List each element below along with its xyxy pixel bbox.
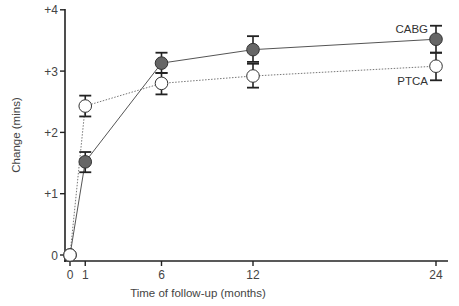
- ptca-line: [70, 66, 436, 255]
- ptca-point: [79, 100, 92, 113]
- x-axis-title: Time of follow-up (months): [130, 287, 266, 299]
- y-axis-title: Change (mins): [10, 97, 22, 173]
- x-tick-label: 24: [429, 268, 443, 282]
- ptca-point: [247, 70, 260, 83]
- x-tick-label: 0: [67, 268, 74, 282]
- y-tick-label: +4: [44, 3, 58, 17]
- cabg-point: [430, 33, 443, 46]
- y-tick-label: +2: [44, 126, 58, 140]
- x-ticks: 0161224: [67, 261, 443, 282]
- cabg-point: [155, 57, 168, 70]
- cabg-point: [64, 249, 77, 262]
- ptca-series: [64, 53, 443, 262]
- line-chart: 0+1+2+3+4 0161224 Time of follow-up (mon…: [0, 0, 459, 306]
- series-label-ptca: PTCA: [397, 75, 428, 87]
- x-tick-label: 1: [82, 268, 89, 282]
- cabg-series: [64, 26, 443, 262]
- ptca-point: [155, 77, 168, 90]
- y-tick-label: +1: [44, 187, 58, 201]
- y-tick-label: 0: [51, 249, 58, 263]
- series-label-cabg: CABG: [395, 23, 428, 35]
- cabg-point: [79, 156, 92, 169]
- series-layer: CABGPTCA: [64, 23, 443, 261]
- ptca-point: [430, 60, 443, 73]
- cabg-point: [247, 43, 260, 56]
- x-tick-label: 6: [158, 268, 165, 282]
- y-ticks: 0+1+2+3+4: [44, 3, 65, 262]
- y-tick-label: +3: [44, 65, 58, 79]
- x-tick-label: 12: [246, 268, 260, 282]
